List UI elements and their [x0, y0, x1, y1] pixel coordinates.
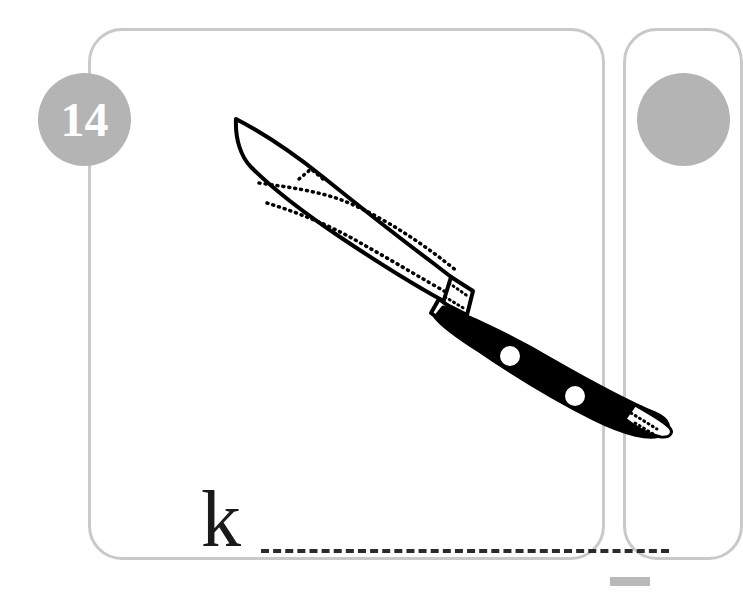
knife-handle-rivet-2	[565, 386, 585, 406]
corner-accent-bar	[610, 577, 650, 586]
answer-first-letter: k	[201, 479, 241, 559]
flashcard[interactable]: k	[88, 28, 605, 560]
knife-illustration	[211, 91, 691, 441]
knife-blade-group	[236, 119, 465, 305]
answer-writing-line[interactable]	[261, 549, 669, 553]
flashcard-number-label: 14	[61, 96, 109, 144]
knife-handle-rivet-1	[500, 346, 520, 366]
flashcard-number-badge: 14	[38, 73, 131, 166]
knife-blade-outline	[236, 119, 465, 305]
knife-handle-group	[435, 307, 671, 437]
answer-row: k	[201, 479, 671, 569]
